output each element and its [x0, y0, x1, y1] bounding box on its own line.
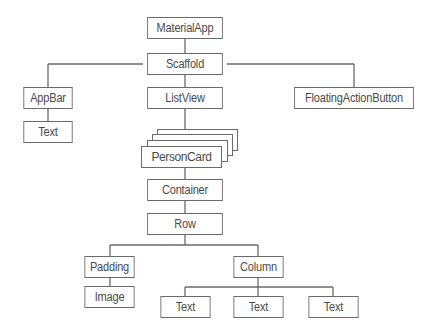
node-floating-action-button: FloatingActionButton	[294, 87, 414, 109]
node-padding: Padding	[84, 256, 134, 278]
node-column-text-3: Text	[308, 296, 358, 318]
node-scaffold: Scaffold	[147, 53, 223, 75]
node-list-view: ListView	[147, 87, 223, 109]
node-column-text-1: Text	[160, 296, 210, 318]
widget-tree-diagram: MaterialApp Scaffold AppBar Text ListVie…	[0, 0, 440, 334]
node-app-bar-text: Text	[23, 121, 72, 143]
node-column-text-2: Text	[233, 296, 283, 318]
node-material-app: MaterialApp	[147, 17, 223, 39]
node-container: Container	[147, 179, 223, 201]
node-image: Image	[84, 286, 134, 308]
node-app-bar: AppBar	[23, 87, 72, 109]
node-person-card: PersonCard	[141, 146, 222, 168]
node-column: Column	[233, 256, 283, 278]
node-row: Row	[147, 213, 223, 235]
